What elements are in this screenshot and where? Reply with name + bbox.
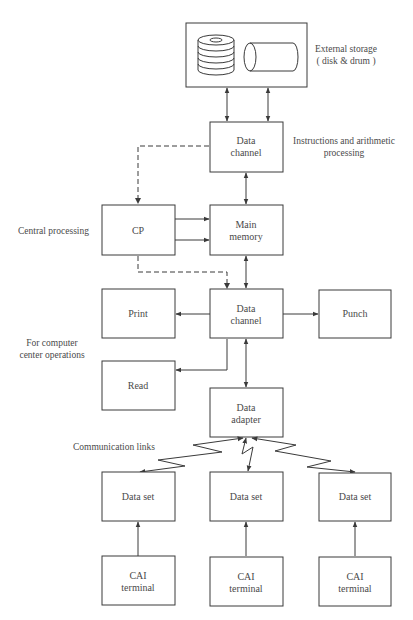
terminal-line2: terminal [229,583,263,594]
data-adapter-line1: Data [237,402,256,413]
cp-box: CP [102,205,175,255]
cai-terminal-box: CAI terminal [319,557,391,606]
data-adapter-box: Data adapter [210,388,283,437]
dashed-link-cp-channel [138,256,227,287]
data-adapter-line2: adapter [231,414,261,425]
comm-link-left [140,438,243,472]
computer-center-sublabel: center operations [19,350,84,360]
instructions-sublabel: processing [324,148,365,158]
dashed-link-channel-cp [138,146,209,203]
main-memory-line2: memory [229,231,262,242]
cai-terminal-box: CAI terminal [102,556,175,605]
computer-center-label: For computer [26,338,78,348]
terminal-line2: terminal [338,583,372,594]
read-box: Read [102,361,175,410]
external-storage-sublabel: ( disk & drum ) [316,56,375,67]
data-set-box: Data set [210,472,283,521]
data-channel-top-box: Data channel [210,122,283,172]
comm-link-right [252,438,355,472]
instructions-label: Instructions and arithmetic [293,136,395,146]
communication-links-label: Communication links [73,442,155,452]
arrowhead [135,198,141,204]
cai-terminal-box: CAI terminal [210,557,283,606]
terminal-line1: CAI [346,571,363,582]
terminal-line1: CAI [237,571,254,582]
data-set-box: Data set [102,472,175,521]
channel-read-arrow [176,339,227,370]
external-storage-box [186,23,307,87]
data-channel-top-line2: channel [230,147,261,158]
punch-label: Punch [343,308,368,319]
central-processing-label: Central processing [18,226,89,236]
data-set-label: Data set [339,491,372,502]
punch-box: Punch [319,290,391,338]
print-box: Print [102,289,175,338]
data-set-label: Data set [122,491,155,502]
external-storage-label: External storage [315,44,377,54]
arrowhead [224,283,230,289]
system-diagram: External storage ( disk & drum ) Data ch… [0,0,413,620]
cp-label: CP [132,225,145,236]
main-memory-box: Main memory [210,205,283,255]
main-memory-line1: Main [235,219,256,230]
read-label: Read [128,380,149,391]
print-label: Print [128,308,148,319]
data-set-box: Data set [319,473,391,521]
data-channel-bottom-box: Data channel [210,289,283,338]
data-set-label: Data set [230,491,263,502]
data-channel-bottom-line2: channel [230,315,261,326]
data-channel-top-line1: Data [237,135,256,146]
terminal-line1: CAI [129,570,146,581]
data-channel-bottom-line1: Data [237,303,256,314]
comm-link-center [242,438,253,471]
terminal-line2: terminal [121,582,155,593]
